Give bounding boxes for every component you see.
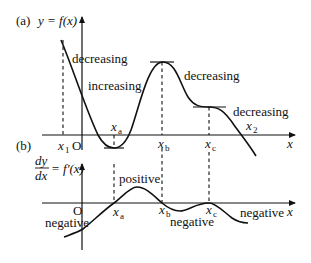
panel-b-tag: (b)	[16, 138, 31, 153]
svg-text:x: x	[57, 138, 64, 153]
annotation-decreasing-1: decreasing	[72, 51, 128, 66]
svg-text:a: a	[118, 126, 122, 136]
svg-text:= f′(x): = f′(x)	[51, 161, 84, 176]
panel-b-y-label: dy dx = f′(x)	[35, 153, 84, 183]
svg-text:dx: dx	[35, 168, 48, 183]
svg-text:x: x	[205, 202, 212, 217]
svg-text:b: b	[166, 209, 171, 219]
svg-text:2: 2	[253, 125, 258, 135]
svg-text:a: a	[120, 211, 124, 221]
svg-text:x: x	[204, 136, 211, 151]
svg-text:x: x	[112, 204, 119, 219]
label-xc-a: x c	[204, 136, 216, 153]
x-axis-label-a: x	[286, 136, 293, 151]
svg-text:c: c	[212, 143, 216, 153]
x-axis-label-b: x	[286, 204, 293, 219]
annotation-increasing: increasing	[88, 78, 142, 93]
panel-b: (b) dy dx = f′(x) positive negative nega…	[16, 138, 295, 250]
label-xb-a: x b	[157, 136, 170, 153]
annotation-decreasing-2: decreasing	[184, 68, 240, 83]
origin-label-a: O	[72, 138, 81, 153]
annotation-negative-1: negative	[45, 215, 89, 230]
origin-label-b: O	[73, 203, 82, 218]
label-xb-b: x b	[158, 202, 171, 219]
label-xa-b: x a	[112, 204, 124, 221]
svg-text:dy: dy	[35, 153, 48, 168]
panel-a: (a) y = f(x) decreasing increasing decre…	[16, 13, 295, 156]
svg-text:x: x	[110, 119, 117, 134]
svg-text:1: 1	[65, 145, 70, 155]
annotation-decreasing-3: decreasing	[233, 104, 289, 119]
panel-a-y-label: y = f(x)	[36, 13, 77, 28]
annotation-positive: positive	[119, 171, 160, 186]
svg-text:x: x	[158, 202, 165, 217]
svg-text:b: b	[165, 143, 170, 153]
label-x1: x 1	[57, 138, 70, 155]
label-x2: x 2	[245, 118, 258, 135]
svg-text:c: c	[213, 209, 217, 219]
panel-a-tag: (a)	[16, 13, 30, 28]
label-xa-a: x a	[110, 119, 122, 136]
function-derivative-diagram: (a) y = f(x) decreasing increasing decre…	[0, 0, 311, 263]
svg-text:x: x	[157, 136, 164, 151]
curve-f-prime	[64, 187, 248, 237]
annotation-negative-3: negative	[240, 205, 284, 220]
svg-text:x: x	[245, 118, 252, 133]
